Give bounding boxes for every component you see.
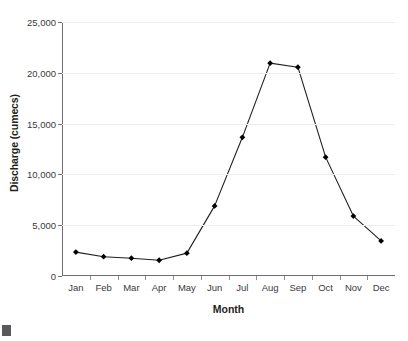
x-axis-tick-mark xyxy=(90,276,91,280)
series-layer xyxy=(62,22,395,276)
corner-artifact xyxy=(2,325,11,336)
x-axis-tick-label: Jan xyxy=(68,282,83,293)
y-axis-tick-mark xyxy=(58,73,62,74)
data-point-marker xyxy=(295,64,301,70)
x-axis-tick-mark xyxy=(367,276,368,280)
x-axis-tick-label: Apr xyxy=(152,282,167,293)
y-axis-tick-labels: 05,00010,00015,00020,00025,000 xyxy=(28,0,60,341)
y-axis-tick-label: 25,000 xyxy=(27,17,56,28)
x-axis-tick-label: Feb xyxy=(95,282,111,293)
x-axis-tick-mark xyxy=(284,276,285,280)
plot-area xyxy=(62,22,395,276)
y-axis-title-label: Discharge (cumecs) xyxy=(8,94,20,192)
x-axis-tick-label: Aug xyxy=(262,282,279,293)
gridline xyxy=(62,22,395,23)
x-axis-tick-mark xyxy=(173,276,174,280)
x-axis-tick-label: May xyxy=(178,282,196,293)
data-point-marker xyxy=(156,257,162,263)
gridline xyxy=(62,124,395,125)
x-axis-tick-label: Sep xyxy=(289,282,306,293)
x-axis-tick-label: Nov xyxy=(345,282,362,293)
y-axis-title: Discharge (cumecs) xyxy=(0,0,28,285)
gridline xyxy=(62,174,395,175)
data-point-marker xyxy=(267,60,273,66)
y-axis-tick-label: 5,000 xyxy=(32,220,56,231)
gridline xyxy=(62,73,395,74)
x-axis-tick-mark xyxy=(312,276,313,280)
data-point-marker xyxy=(212,203,218,209)
y-axis-tick-label: 15,000 xyxy=(27,118,56,129)
data-point-marker xyxy=(73,249,79,255)
x-axis-tick-mark xyxy=(201,276,202,280)
y-axis-tick-mark xyxy=(58,124,62,125)
data-point-marker xyxy=(128,255,134,261)
data-point-marker xyxy=(101,254,107,260)
x-axis-tick-mark xyxy=(340,276,341,280)
y-axis-tick-label: 0 xyxy=(51,271,56,282)
y-axis-tick-mark xyxy=(58,225,62,226)
data-point-marker xyxy=(323,154,329,160)
x-axis-tick-label: Oct xyxy=(318,282,333,293)
x-axis-tick-label: Mar xyxy=(123,282,139,293)
y-axis-tick-mark xyxy=(58,276,62,277)
data-point-marker xyxy=(239,134,245,140)
x-axis-tick-mark xyxy=(145,276,146,280)
y-axis-tick-label: 20,000 xyxy=(27,67,56,78)
x-axis-tick-labels: JanFebMarAprMayJunJulAugSepOctNovDec xyxy=(62,282,395,298)
data-point-marker xyxy=(184,250,190,256)
x-axis-title: Month xyxy=(62,303,395,315)
y-axis-tick-mark xyxy=(58,174,62,175)
x-axis-tick-label: Jul xyxy=(236,282,248,293)
gridline xyxy=(62,225,395,226)
x-axis-tick-label: Jun xyxy=(207,282,222,293)
y-axis-tick-label: 10,000 xyxy=(27,169,56,180)
y-axis-tick-mark xyxy=(58,22,62,23)
x-axis-tick-mark xyxy=(256,276,257,280)
x-axis-tick-mark xyxy=(118,276,119,280)
discharge-line-chart: Discharge (cumecs) 05,00010,00015,00020,… xyxy=(0,0,408,341)
x-axis-tick-label: Dec xyxy=(373,282,390,293)
x-axis-tick-mark xyxy=(229,276,230,280)
series-line xyxy=(76,63,381,260)
